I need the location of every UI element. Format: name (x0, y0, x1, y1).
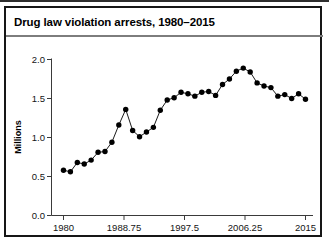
y-tick-label: 1.0 (32, 132, 45, 143)
data-point (165, 97, 170, 102)
data-point (178, 90, 183, 95)
data-point (109, 139, 114, 144)
data-point (289, 96, 294, 101)
data-point (75, 160, 80, 165)
data-point (261, 83, 266, 88)
data-point (247, 69, 252, 74)
y-tick-label: 1.5 (32, 93, 45, 104)
data-point (82, 161, 87, 166)
data-point (171, 95, 176, 100)
data-point (227, 76, 232, 81)
data-point (206, 89, 211, 94)
data-point (95, 150, 100, 155)
data-point (144, 129, 149, 134)
data-point (234, 69, 239, 74)
data-point (137, 134, 142, 139)
data-point (116, 122, 121, 127)
data-point (130, 128, 135, 133)
data-point (68, 169, 73, 174)
data-point (296, 91, 301, 96)
data-point (158, 108, 163, 113)
data-point (88, 157, 93, 162)
data-point (185, 91, 190, 96)
x-tick-label: 1980 (53, 222, 74, 233)
x-tick-label: 1988.75 (107, 222, 141, 233)
data-point (151, 125, 156, 130)
data-point (220, 82, 225, 87)
y-tick-label: 2.0 (32, 54, 45, 65)
data-point (268, 85, 273, 90)
data-point (241, 65, 246, 70)
data-point (282, 92, 287, 97)
data-point (192, 93, 197, 98)
x-tick-label: 2006.25 (228, 222, 262, 233)
trend-line (64, 68, 306, 172)
data-point (275, 93, 280, 98)
x-tick-label: 1997.5 (170, 222, 199, 233)
data-point (213, 93, 218, 98)
data-point (123, 107, 128, 112)
data-point (254, 80, 259, 85)
figure-page: { "figure": { "title": "Drug law violati… (0, 0, 329, 239)
x-tick-label: 2015 (295, 222, 316, 233)
data-point (199, 90, 204, 95)
y-tick-label: 0.0 (32, 210, 45, 221)
data-point (61, 168, 66, 173)
data-point (303, 97, 308, 102)
data-point (102, 149, 107, 154)
y-tick-label: 0.5 (32, 171, 45, 182)
line-chart: 0.00.51.01.52.019801988.751997.52006.252… (0, 0, 329, 239)
